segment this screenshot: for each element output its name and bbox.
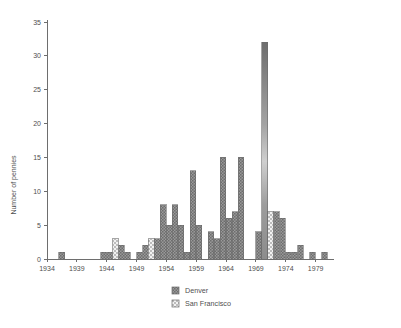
x-tick-label: 1964 bbox=[218, 265, 234, 272]
x-tick-label: 1949 bbox=[129, 265, 145, 272]
bar bbox=[262, 42, 268, 259]
bar bbox=[107, 252, 113, 259]
y-tick-label: 35 bbox=[33, 19, 41, 26]
bar bbox=[298, 245, 304, 259]
x-axis: 1934193919441949195419591964196919741979 bbox=[39, 259, 333, 272]
bar bbox=[322, 252, 328, 259]
legend-swatch bbox=[172, 300, 179, 307]
bar bbox=[166, 225, 172, 259]
bar bbox=[214, 239, 220, 259]
bar bbox=[310, 252, 316, 259]
penny-year-histogram: 05101520253035 1934193919441949195419591… bbox=[0, 0, 401, 328]
bar bbox=[178, 225, 184, 259]
bar bbox=[160, 205, 166, 259]
legend: DenverSan Francisco bbox=[172, 286, 231, 308]
x-tick-label: 1974 bbox=[278, 265, 294, 272]
bar bbox=[172, 205, 178, 259]
legend-label: Denver bbox=[185, 286, 209, 295]
x-tick-label: 1954 bbox=[159, 265, 175, 272]
x-tick-label: 1979 bbox=[308, 265, 324, 272]
x-tick-label: 1944 bbox=[99, 265, 115, 272]
x-tick-label: 1939 bbox=[69, 265, 85, 272]
bar bbox=[274, 212, 280, 259]
bar bbox=[148, 239, 154, 259]
y-axis: 05101520253035 bbox=[33, 19, 47, 263]
bar bbox=[125, 252, 131, 259]
bar bbox=[268, 212, 274, 259]
bar bbox=[190, 171, 196, 259]
bar bbox=[59, 252, 65, 259]
y-tick-label: 30 bbox=[33, 52, 41, 59]
y-tick-label: 25 bbox=[33, 86, 41, 93]
bar bbox=[220, 157, 226, 259]
bar bbox=[292, 252, 298, 259]
bar bbox=[184, 252, 190, 259]
legend-swatch bbox=[172, 287, 179, 294]
y-tick-label: 0 bbox=[37, 256, 41, 263]
x-tick-label: 1969 bbox=[248, 265, 264, 272]
legend-label: San Francisco bbox=[185, 299, 231, 308]
bar bbox=[232, 212, 238, 259]
y-tick-label: 15 bbox=[33, 154, 41, 161]
y-tick-label: 20 bbox=[33, 120, 41, 127]
bar bbox=[137, 252, 143, 259]
bar bbox=[113, 239, 119, 259]
chart-canvas: 05101520253035 1934193919441949195419591… bbox=[0, 0, 401, 328]
bar bbox=[101, 252, 107, 259]
bar bbox=[286, 252, 292, 259]
bar bbox=[143, 245, 149, 259]
x-tick-label: 1934 bbox=[39, 265, 55, 272]
bar bbox=[208, 232, 214, 259]
plot-bars bbox=[59, 42, 327, 259]
x-tick-label: 1959 bbox=[188, 265, 204, 272]
bar bbox=[119, 245, 125, 259]
bar bbox=[226, 218, 232, 259]
bar bbox=[196, 225, 202, 259]
y-tick-label: 10 bbox=[33, 188, 41, 195]
bar bbox=[280, 218, 286, 259]
bar bbox=[256, 232, 262, 259]
bar bbox=[154, 239, 160, 259]
y-tick-label: 5 bbox=[37, 222, 41, 229]
bar bbox=[238, 157, 244, 259]
y-axis-title: Number of pennies bbox=[10, 155, 18, 215]
